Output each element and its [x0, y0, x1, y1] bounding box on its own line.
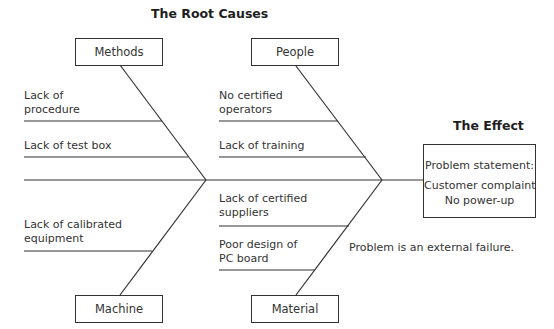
cause-line: equipment: [24, 232, 122, 246]
cause-line: Poor design of: [219, 238, 297, 252]
cause-lack-of-test-box: Lack of test box: [24, 139, 111, 153]
cause-line: Lack of calibrated: [24, 218, 122, 232]
machine-bone: [120, 180, 206, 295]
cause-lack-of-training: Lack of training: [219, 139, 305, 153]
cause-lack-of-procedure: Lack of procedure: [24, 89, 80, 117]
category-methods: Methods: [75, 38, 163, 66]
cause-line: Lack of: [24, 89, 80, 103]
external-failure-note: Problem is an external failure.: [349, 241, 514, 254]
cause-line: suppliers: [219, 206, 307, 220]
cause-line: operators: [219, 103, 283, 117]
methods-bone: [120, 65, 206, 180]
category-people: People: [251, 38, 339, 66]
cause-line: procedure: [24, 103, 80, 117]
material-bone: [296, 180, 382, 295]
cause-lack-of-calibrated-equipment: Lack of calibrated equipment: [24, 218, 122, 246]
effect-line-1: Customer complaint: [424, 178, 535, 193]
cause-poor-design-pc-board: Poor design of PC board: [219, 238, 297, 266]
cause-no-certified-operators: No certified operators: [219, 89, 283, 117]
cause-lack-of-certified-suppliers: Lack of certified suppliers: [219, 192, 307, 220]
effect-line-2: No power-up: [424, 193, 535, 208]
category-machine: Machine: [75, 295, 163, 323]
cause-line: Lack of test box: [24, 139, 111, 153]
problem-statement-label: Problem statement:: [424, 158, 535, 173]
effect-heading: The Effect: [453, 118, 524, 133]
cause-line: Lack of certified: [219, 192, 307, 206]
cause-line: Lack of training: [219, 139, 305, 153]
cause-line: No certified: [219, 89, 283, 103]
people-bone: [296, 66, 382, 180]
effect-box: Problem statement: Customer complaint No…: [423, 144, 536, 218]
category-material: Material: [251, 295, 339, 323]
root-causes-title: The Root Causes: [151, 6, 268, 21]
cause-line: PC board: [219, 252, 297, 266]
